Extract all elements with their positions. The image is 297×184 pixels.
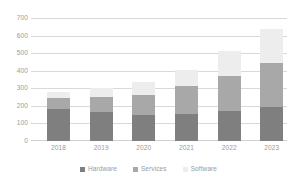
- gridline-600: [31, 36, 287, 37]
- bar-segment-services[interactable]: [90, 97, 113, 112]
- bar-stack-2018[interactable]: [47, 92, 70, 141]
- legend-item-services[interactable]: Services: [133, 166, 167, 173]
- x-tick-label-2022: 2022: [209, 145, 249, 152]
- y-tick-label: 600: [2, 33, 28, 40]
- bar-segment-hardware[interactable]: [132, 115, 155, 141]
- y-tick-label: 700: [2, 15, 28, 22]
- legend-swatch-icon: [133, 167, 138, 172]
- y-tick-label: 300: [2, 85, 28, 92]
- bar-stack-2020[interactable]: [132, 82, 155, 141]
- x-tick-label-2020: 2020: [124, 145, 164, 152]
- bar-segment-hardware[interactable]: [218, 111, 241, 141]
- plot-area: [31, 18, 287, 141]
- legend-swatch-icon: [80, 167, 85, 172]
- bar-segment-hardware[interactable]: [260, 107, 283, 141]
- bar-stack-2023[interactable]: [260, 29, 283, 141]
- y-tick-label: 0: [2, 138, 28, 145]
- y-tick-label: 100: [2, 120, 28, 127]
- legend-swatch-icon: [183, 167, 188, 172]
- legend-item-software[interactable]: Software: [183, 166, 217, 173]
- bar-stack-2022[interactable]: [218, 51, 241, 141]
- bar-segment-software[interactable]: [218, 51, 241, 76]
- bar-segment-software[interactable]: [132, 82, 155, 95]
- y-tick-label: 400: [2, 68, 28, 75]
- gridline-400: [31, 71, 287, 72]
- bar-stack-2021[interactable]: [175, 70, 198, 141]
- gridline-700: [31, 18, 287, 19]
- x-tick-label-2019: 2019: [81, 145, 121, 152]
- bar-segment-services[interactable]: [175, 86, 198, 114]
- bar-segment-hardware[interactable]: [175, 114, 198, 141]
- bar-segment-software[interactable]: [175, 70, 198, 86]
- legend-label: Services: [141, 166, 167, 173]
- stacked-bar-chart: 700 600 500 400 300 200 100 0: [0, 0, 297, 184]
- gridline-500: [31, 53, 287, 54]
- x-tick-label-2018: 2018: [39, 145, 79, 152]
- legend-item-hardware[interactable]: Hardware: [80, 166, 117, 173]
- bar-segment-services[interactable]: [132, 95, 155, 115]
- x-axis: 2018 2019 2020 2021 2022 2023: [31, 145, 287, 157]
- legend-label: Hardware: [88, 166, 117, 173]
- bar-segment-hardware[interactable]: [90, 112, 113, 141]
- legend-label: Software: [191, 166, 217, 173]
- gridline-300: [31, 88, 287, 89]
- y-tick-label: 200: [2, 103, 28, 110]
- bar-segment-software[interactable]: [260, 29, 283, 63]
- y-tick-label: 500: [2, 50, 28, 57]
- bar-segment-hardware[interactable]: [47, 109, 70, 141]
- x-tick-label-2023: 2023: [252, 145, 292, 152]
- y-axis: 700 600 500 400 300 200 100 0: [0, 18, 28, 141]
- bar-stack-2019[interactable]: [90, 88, 113, 141]
- chart-legend: Hardware Services Software: [0, 166, 297, 173]
- bar-segment-services[interactable]: [47, 98, 70, 109]
- bar-segment-services[interactable]: [218, 76, 241, 110]
- bar-segment-services[interactable]: [260, 63, 283, 107]
- x-tick-label-2021: 2021: [167, 145, 207, 152]
- bar-segment-software[interactable]: [90, 88, 113, 97]
